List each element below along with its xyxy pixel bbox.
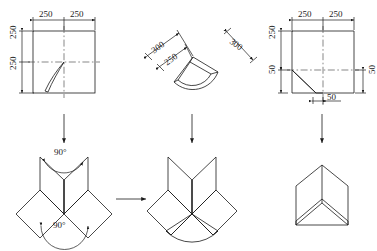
dim-label-tr-offset: 50 (327, 93, 336, 102)
dim-label-tr-h1: 250 (268, 26, 277, 40)
dim-top-right-vertical-right (355, 70, 366, 93)
angle-label-upper: 90° (54, 148, 67, 157)
dim-label-tl-w1: 250 (39, 10, 53, 19)
shape-flat-fan (174, 57, 218, 90)
dim-label-tl-h1: 250 (9, 26, 18, 40)
process-arrows (64, 114, 322, 199)
shape-folded-star-fan (147, 157, 237, 242)
shape-assembled-solid (296, 165, 348, 225)
dim-label-tl-h2: 250 (9, 57, 18, 71)
angle-label-lower: 90° (53, 221, 66, 230)
shape-flat-chamfer (287, 26, 359, 105)
dim-top-right-vertical-left (278, 31, 293, 93)
dim-label-tr-h3: 50 (368, 65, 377, 74)
dim-label-tr-h2: 50 (268, 65, 277, 74)
dim-label-tr-w1: 250 (298, 10, 312, 19)
dim-label-tr-w2: 250 (329, 10, 343, 19)
dim-label-tl-w2: 250 (70, 10, 84, 19)
shape-flat-square (28, 26, 100, 98)
